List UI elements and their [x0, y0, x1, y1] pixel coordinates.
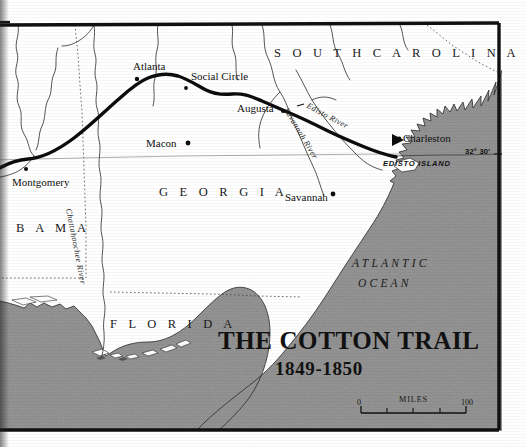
city-label-atlanta: Atlanta: [133, 61, 165, 72]
scale-bar-min-label: 0: [357, 399, 361, 407]
scale-bar-unit-label: MILES: [399, 396, 428, 404]
scale-bar-max-label: 100: [461, 399, 473, 407]
cotton-trail-map-figure: B A M A G E O R G I A F L O R I D A S O …: [0, 0, 526, 447]
ocean-label-line2: OCEAN: [358, 278, 412, 290]
city-dot-social-circle: [184, 86, 188, 90]
city-label-montgomery: Montgomery: [12, 177, 69, 188]
city-label-social-circle: Social Circle: [191, 71, 248, 82]
state-label-south-carolina: S O U T H C A R O L I N A: [274, 47, 520, 60]
city-label-savannah: Savannah: [285, 192, 328, 203]
state-label-alabama: B A M A: [16, 222, 90, 235]
city-dot-macon: [186, 141, 191, 146]
graticule-label-3230: 32° 30': [465, 148, 490, 156]
city-dot-atlanta: [135, 77, 139, 81]
state-label-georgia: G E O R G I A: [159, 186, 288, 199]
map-title-line1: THE COTTON TRAIL: [218, 328, 480, 353]
feature-label-edisto-island: EDISTO ISLAND: [383, 160, 451, 168]
ocean-label-line1: ATLANTIC: [352, 258, 430, 270]
city-dot-montgomery: [24, 167, 28, 171]
city-dot-savannah: [331, 192, 336, 197]
city-label-macon: Macon: [146, 138, 177, 149]
map-title-line2: 1849-1850: [275, 359, 363, 378]
city-label-charleston: Charleston: [403, 133, 451, 144]
city-label-augusta: Augusta: [237, 103, 274, 114]
